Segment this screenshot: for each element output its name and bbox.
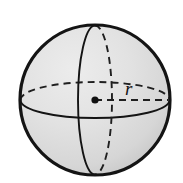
figure-root: r (0, 0, 183, 183)
radius-label: r (125, 78, 133, 99)
sphere-diagram: r (0, 0, 183, 183)
center-dot (91, 96, 98, 103)
